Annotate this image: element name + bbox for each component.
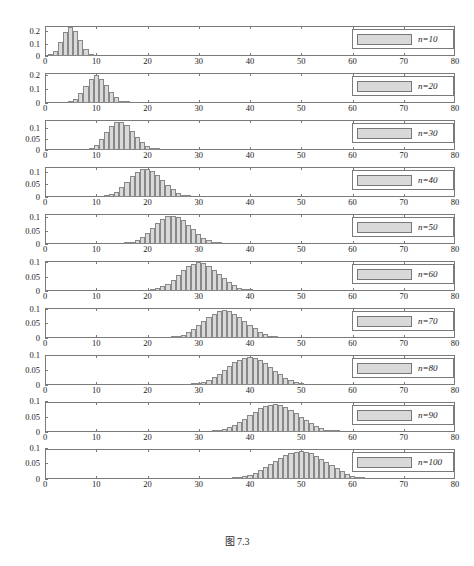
x-tick-label: 40 (238, 104, 262, 113)
x-tick-label: 0 (33, 480, 57, 489)
legend-swatch (357, 316, 412, 327)
x-tick-label: 20 (136, 292, 160, 301)
x-tick-label: 80 (443, 480, 467, 489)
x-tick-label: 20 (136, 104, 160, 113)
x-tick-label: 10 (84, 104, 108, 113)
legend: n=50 (352, 217, 454, 237)
y-axis-labels: 00.050.1 (0, 351, 43, 389)
legend-swatch (357, 34, 412, 45)
x-tick-label: 50 (289, 57, 313, 66)
histogram-panel: 00.050.101020304050607080n=70 (0, 304, 474, 351)
x-tick-label: 50 (289, 151, 313, 160)
x-tick-label: 80 (443, 339, 467, 348)
y-tick-label: 0.05 (25, 319, 40, 328)
y-tick-label: 0.05 (25, 227, 40, 236)
x-tick-label: 10 (84, 339, 108, 348)
histogram-bar (89, 54, 94, 57)
x-tick-label: 20 (136, 245, 160, 254)
x-tick-label: 70 (392, 386, 416, 395)
x-tick-label: 20 (136, 433, 160, 442)
x-tick-label: 60 (341, 292, 365, 301)
histogram-panel: 00.050.101020304050607080n=60 (0, 257, 474, 304)
y-axis-labels: 00.050.1 (0, 398, 43, 436)
x-axis-labels: 01020304050607080 (0, 386, 474, 398)
x-tick-label: 40 (238, 245, 262, 254)
y-tick-label: 0.05 (25, 413, 40, 422)
x-tick-label: 50 (289, 292, 313, 301)
legend: n=80 (352, 358, 454, 378)
x-tick-label: 80 (443, 198, 467, 207)
legend-label: n=90 (418, 410, 438, 420)
x-tick-label: 70 (392, 198, 416, 207)
x-tick-label: 40 (238, 292, 262, 301)
x-tick-label: 50 (289, 386, 313, 395)
y-tick-label: 0.1 (29, 124, 40, 133)
x-tick-label: 0 (33, 198, 57, 207)
histogram-bar (124, 101, 129, 103)
x-tick-label: 0 (33, 386, 57, 395)
x-tick-label: 50 (289, 245, 313, 254)
figure-container: 00.10.201020304050607080n=1000.10.201020… (0, 0, 474, 566)
legend: n=30 (352, 123, 454, 143)
x-tick-label: 10 (84, 57, 108, 66)
x-tick-label: 30 (187, 386, 211, 395)
x-tick-label: 10 (84, 386, 108, 395)
histogram-bar (217, 242, 222, 244)
legend-label: n=80 (418, 363, 438, 373)
legend-swatch (357, 410, 412, 421)
x-tick-label: 80 (443, 433, 467, 442)
x-tick-label: 0 (33, 433, 57, 442)
legend-swatch (357, 81, 412, 92)
x-tick-label: 0 (33, 339, 57, 348)
histogram-panel: 00.050.101020304050607080n=80 (0, 351, 474, 398)
figure-caption: 图 7.3 (0, 533, 474, 548)
legend: n=100 (352, 452, 454, 472)
legend-swatch (357, 222, 412, 233)
histogram-panel: 00.050.101020304050607080n=30 (0, 116, 474, 163)
x-tick-label: 40 (238, 57, 262, 66)
x-tick-label: 70 (392, 339, 416, 348)
histogram-bar (360, 477, 365, 479)
x-axis-labels: 01020304050607080 (0, 151, 474, 163)
y-tick-label: 0.05 (25, 180, 40, 189)
x-tick-label: 10 (84, 480, 108, 489)
x-tick-label: 40 (238, 339, 262, 348)
y-tick-label: 0.05 (25, 273, 40, 282)
x-tick-label: 20 (136, 198, 160, 207)
histogram-bar (273, 336, 278, 338)
x-tick-label: 30 (187, 480, 211, 489)
x-tick-label: 50 (289, 480, 313, 489)
x-tick-label: 0 (33, 104, 57, 113)
x-tick-label: 40 (238, 480, 262, 489)
legend-label: n=60 (418, 269, 438, 279)
legend-swatch (357, 269, 412, 280)
x-tick-label: 40 (238, 386, 262, 395)
x-tick-label: 50 (289, 104, 313, 113)
legend-label: n=10 (418, 34, 438, 44)
x-tick-label: 0 (33, 57, 57, 66)
y-axis-labels: 00.050.1 (0, 210, 43, 248)
x-tick-label: 60 (341, 57, 365, 66)
legend-label: n=70 (418, 316, 438, 326)
x-tick-label: 70 (392, 151, 416, 160)
x-tick-label: 60 (341, 151, 365, 160)
histogram-bar (299, 383, 304, 385)
y-axis-labels: 00.050.1 (0, 445, 43, 483)
x-axis-labels: 01020304050607080 (0, 245, 474, 257)
x-tick-label: 70 (392, 104, 416, 113)
legend-label: n=40 (418, 175, 438, 185)
x-tick-label: 80 (443, 151, 467, 160)
x-tick-label: 20 (136, 339, 160, 348)
x-tick-label: 10 (84, 433, 108, 442)
x-tick-label: 40 (238, 151, 262, 160)
x-tick-label: 20 (136, 386, 160, 395)
x-tick-label: 80 (443, 386, 467, 395)
x-tick-label: 70 (392, 433, 416, 442)
y-tick-label: 0.1 (29, 351, 40, 360)
legend-swatch (357, 175, 412, 186)
x-tick-label: 70 (392, 292, 416, 301)
x-tick-label: 40 (238, 433, 262, 442)
x-tick-label: 80 (443, 245, 467, 254)
x-tick-label: 20 (136, 480, 160, 489)
x-tick-label: 30 (187, 292, 211, 301)
